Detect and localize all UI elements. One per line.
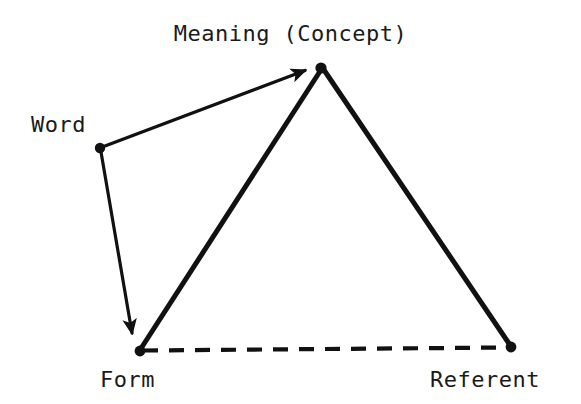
- node-dot-referent: [506, 342, 517, 353]
- diagram-canvas: Meaning (arrow at meaning end) --> Form …: [0, 0, 581, 404]
- node-label-word: Word: [31, 114, 86, 136]
- node-dot-word: [95, 143, 105, 153]
- node-dot-meaning: [315, 62, 326, 73]
- edge-word-to-meaning: [101, 71, 305, 148]
- edge-meaning-to-referent: [323, 69, 511, 347]
- edge-form-to-referent: [143, 348, 508, 351]
- edge-form-to-meaning: [140, 69, 322, 350]
- node-dot-form: [135, 346, 146, 357]
- node-label-form: Form: [100, 369, 155, 391]
- semiotic-triangle-diagram: Meaning (arrow at meaning end) --> Form …: [0, 0, 581, 404]
- node-label-referent: Referent: [430, 369, 540, 391]
- node-label-meaning: Meaning (Concept): [0, 23, 581, 45]
- edge-word-to-form: [101, 149, 133, 333]
